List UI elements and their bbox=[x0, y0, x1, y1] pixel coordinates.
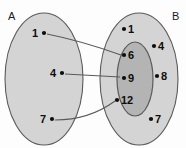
codomain-element-dot bbox=[122, 53, 126, 57]
codomain-element-dot bbox=[152, 44, 156, 48]
codomain-element-dot bbox=[149, 117, 153, 121]
codomain-element-dot bbox=[155, 74, 159, 78]
codomain-element-label: 6 bbox=[128, 49, 134, 61]
domain-element-dot bbox=[60, 71, 64, 75]
codomain-element-label: 4 bbox=[158, 40, 165, 52]
domain-element-label: 4 bbox=[50, 67, 57, 79]
domain-element-dot bbox=[42, 31, 46, 35]
venn-mapping-figure: A B 1 4 7 1 4 6 9 12 8 7 bbox=[0, 0, 186, 148]
codomain-element-label: 12 bbox=[121, 94, 133, 106]
codomain-element-label: 7 bbox=[155, 113, 161, 125]
codomain-element-label: 1 bbox=[128, 23, 134, 35]
set-label-b: B bbox=[172, 10, 179, 22]
diagram-canvas: A B 1 4 7 1 4 6 9 12 8 7 bbox=[0, 0, 186, 148]
codomain-element-dot bbox=[122, 27, 126, 31]
codomain-element-label: 8 bbox=[161, 70, 167, 82]
domain-element-dot bbox=[50, 117, 54, 121]
domain-element-label: 7 bbox=[40, 113, 46, 125]
codomain-element-label: 9 bbox=[128, 72, 134, 84]
codomain-element-dot bbox=[115, 98, 119, 102]
set-label-a: A bbox=[8, 10, 16, 22]
codomain-element-dot bbox=[122, 76, 126, 80]
domain-element-label: 1 bbox=[32, 27, 38, 39]
